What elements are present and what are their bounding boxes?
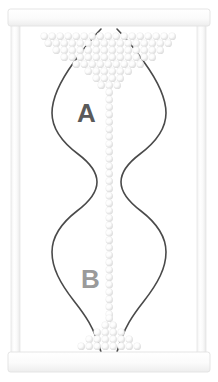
reservoir-bead bbox=[93, 68, 100, 76]
bead-flow-apparatus-diagram: AB bbox=[0, 0, 218, 382]
pile-bead bbox=[110, 336, 117, 344]
pile-bead bbox=[118, 336, 125, 344]
stream-bead bbox=[106, 281, 113, 289]
stream-bead bbox=[106, 148, 113, 156]
reservoir-bead bbox=[129, 33, 136, 41]
pile-bead bbox=[110, 322, 117, 330]
stream-bead bbox=[106, 133, 113, 141]
reservoir-bead bbox=[125, 68, 132, 76]
stream-bead bbox=[106, 140, 113, 148]
chamber-labels-layer: AB bbox=[77, 98, 100, 294]
stream-bead bbox=[106, 214, 113, 222]
reservoir-bead bbox=[109, 68, 116, 76]
reservoir-bead bbox=[161, 33, 168, 41]
right-vertical-rail bbox=[197, 25, 206, 354]
pile-bead bbox=[134, 343, 141, 351]
reservoir-bead bbox=[81, 61, 88, 69]
chamber-label-a: A bbox=[77, 98, 96, 128]
reservoir-bead bbox=[117, 40, 124, 48]
reservoir-bead bbox=[109, 54, 116, 62]
reservoir-bead bbox=[106, 82, 113, 90]
reservoir-bead bbox=[117, 47, 124, 55]
reservoir-bead bbox=[153, 33, 160, 41]
reservoir-bead bbox=[93, 75, 100, 83]
reservoir-bead bbox=[69, 40, 76, 48]
reservoir-bead bbox=[137, 33, 144, 41]
reservoir-bead bbox=[165, 40, 172, 48]
pile-bead bbox=[102, 329, 109, 337]
reservoir-bead bbox=[93, 47, 100, 55]
stream-bead bbox=[106, 170, 113, 178]
left-vertical-rail bbox=[11, 25, 20, 354]
stream-bead bbox=[106, 126, 113, 133]
stream-bead bbox=[106, 89, 113, 97]
reservoir-bead bbox=[105, 61, 112, 69]
reservoir-bead bbox=[133, 40, 140, 48]
reservoir-bead bbox=[125, 47, 132, 55]
reservoir-bead bbox=[81, 33, 88, 41]
stream-bead bbox=[106, 259, 113, 266]
stream-bead bbox=[106, 296, 113, 303]
reservoir-bead bbox=[97, 33, 104, 41]
reservoir-bead bbox=[77, 47, 84, 55]
reservoir-bead bbox=[117, 68, 124, 76]
reservoir-bead bbox=[125, 54, 132, 62]
pile-bead bbox=[86, 336, 93, 344]
reservoir-bead bbox=[101, 54, 108, 62]
pile-bead bbox=[78, 343, 85, 351]
reservoir-bead bbox=[101, 40, 108, 48]
reservoir-bead bbox=[57, 33, 64, 41]
reservoir-bead bbox=[101, 68, 108, 76]
reservoir-bead bbox=[73, 61, 80, 69]
reservoir-bead bbox=[105, 33, 112, 41]
reservoir-bead bbox=[141, 40, 148, 48]
reservoir-bead bbox=[149, 40, 156, 48]
stream-bead bbox=[106, 274, 113, 282]
stream-bead bbox=[106, 96, 113, 104]
reservoir-bead bbox=[125, 40, 132, 48]
reservoir-bead bbox=[93, 54, 100, 62]
reservoir-bead bbox=[145, 33, 152, 41]
reservoir-bead bbox=[101, 47, 108, 55]
pile-bead bbox=[94, 336, 101, 344]
pile-bead bbox=[126, 343, 133, 351]
stream-bead bbox=[106, 200, 113, 208]
figure-canvas: AB bbox=[0, 0, 218, 382]
stream-bead bbox=[106, 118, 113, 126]
reservoir-bead bbox=[109, 40, 116, 48]
stream-bead bbox=[106, 244, 113, 252]
chamber-wall-right bbox=[117, 29, 166, 352]
reservoir-bead bbox=[53, 47, 60, 55]
stream-bead bbox=[106, 266, 113, 273]
pile-bead bbox=[102, 322, 109, 330]
reservoir-bead bbox=[101, 75, 108, 83]
reservoir-bead bbox=[121, 61, 128, 69]
pile-bead bbox=[86, 343, 93, 351]
stream-bead bbox=[106, 155, 113, 163]
reservoir-bead bbox=[109, 47, 116, 55]
pile-bead bbox=[102, 343, 109, 351]
reservoir-bead bbox=[97, 61, 104, 69]
reservoir-bead bbox=[61, 47, 68, 55]
reservoir-bead bbox=[85, 54, 92, 62]
stream-bead bbox=[106, 288, 113, 296]
reservoir-bead bbox=[61, 54, 68, 62]
stream-bead bbox=[106, 303, 113, 310]
reservoir-bead bbox=[77, 40, 84, 48]
pile-bead bbox=[110, 343, 117, 351]
stream-bead bbox=[106, 163, 113, 171]
stream-bead bbox=[106, 207, 113, 215]
top-rail-bar bbox=[8, 9, 210, 26]
stream-bead bbox=[106, 111, 113, 119]
reservoir-bead bbox=[45, 40, 52, 48]
pile-bead bbox=[118, 329, 125, 337]
reservoir-bead bbox=[109, 75, 116, 83]
reservoir-bead bbox=[129, 61, 136, 69]
reservoir-bead bbox=[89, 33, 96, 41]
bottom-rail-bar bbox=[8, 352, 210, 372]
reservoir-bead bbox=[157, 47, 164, 55]
stream-bead bbox=[106, 185, 113, 193]
stream-bead bbox=[106, 222, 113, 230]
reservoir-bead bbox=[85, 47, 92, 55]
reservoir-bead bbox=[137, 61, 144, 69]
